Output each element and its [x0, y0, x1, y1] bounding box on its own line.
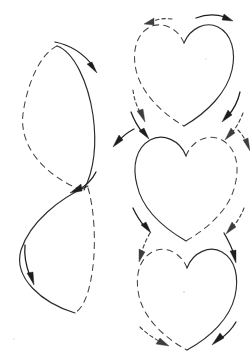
figure-canvas: [0, 0, 250, 354]
heart2-top-right-inbound-head: [225, 128, 235, 140]
heart1-top-right-arrow-head: [222, 14, 233, 21]
heart2-bottom-right-arrow-head: [226, 222, 236, 234]
paper-speck: [183, 291, 185, 293]
paper-speck: [205, 58, 207, 60]
heart1-solid-right-half: [184, 25, 233, 126]
heart-1-cardioid: [133, 14, 240, 126]
lemniscate-top-arrow-shaft: [55, 42, 93, 66]
heart1-top-left-arrow-head: [144, 18, 154, 25]
lemniscate-bottom-arrow-shaft: [25, 245, 30, 276]
heart2-upper-right-outbound-head: [243, 138, 250, 151]
heart2-upper-left-outbound-head: [113, 135, 123, 147]
paper-speck: [13, 338, 15, 340]
left-column-lemniscate: [20, 42, 97, 313]
heart-2-cardioid: [113, 112, 250, 241]
diagram-svg: [0, 0, 250, 354]
lemniscate-upper-loop-dashed-left: [23, 46, 84, 191]
heart3-bottom-right-arrow-head: [212, 333, 224, 345]
heart3-bottom-left-arrow-shaft: [140, 327, 161, 342]
lemniscate-lower-loop-solid-left: [20, 186, 88, 313]
heart1-bottom-right-arrow-head: [222, 110, 232, 122]
heart1-bottom-left-arrow-head: [137, 109, 145, 122]
heart3-top-left-arrow-head: [139, 249, 145, 262]
heart2-dashed-right-half: [186, 137, 237, 241]
heart3-dashed-left-half: [137, 249, 187, 350]
lemniscate-upper-loop-solid-right: [57, 46, 95, 190]
heart3-solid-right-half: [187, 249, 237, 350]
lemniscate-top-arrow-head: [87, 62, 97, 73]
heart-3-cardioid: [137, 233, 236, 350]
heart3-bottom-left-arrow-head: [156, 338, 169, 346]
heart1-top-right-arrow-shaft: [196, 15, 225, 18]
lemniscate-lower-loop-dashed-right: [75, 188, 94, 313]
